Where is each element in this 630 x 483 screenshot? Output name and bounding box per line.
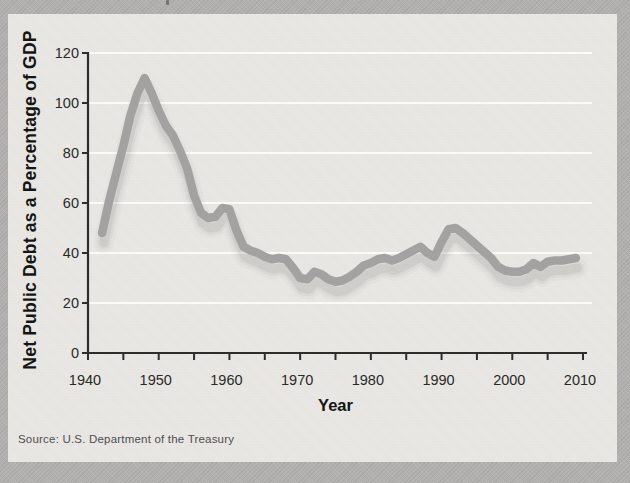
page-background: 1940195019601970198019902000201002040608… [0,0,630,483]
debt-gdp-line-chart: 1940195019601970198019902000201002040608… [8,14,617,462]
y-tick-label: 120 [55,45,79,61]
x-tick-label: 1990 [422,372,454,388]
y-axis-title: Net Public Debt as a Percentage of GDP [20,30,42,370]
x-tick-label: 1960 [210,372,242,388]
y-tick-label: 60 [63,195,79,211]
print-artifact-mark [166,0,169,5]
y-tick-label: 40 [63,245,79,261]
y-tick-label: 80 [63,145,79,161]
x-tick-label: 1970 [281,372,313,388]
debt-line-shadow [104,88,578,292]
debt-line-shadow [104,88,578,292]
debt-line [102,78,576,282]
y-tick-label: 0 [71,345,79,361]
y-tick-label: 20 [63,295,79,311]
x-tick-label: 1940 [69,372,101,388]
y-tick-label: 100 [55,95,79,111]
x-tick-label: 1980 [352,372,384,388]
source-note: Source: U.S. Department of the Treasury [18,433,234,445]
x-axis-title: Year [318,396,353,414]
x-tick-label: 1950 [140,372,172,388]
x-tick-label: 2000 [493,372,525,388]
x-tick-label: 2010 [564,372,596,388]
chart-card: 1940195019601970198019902000201002040608… [8,14,617,462]
debt-line-shadow [104,88,578,292]
